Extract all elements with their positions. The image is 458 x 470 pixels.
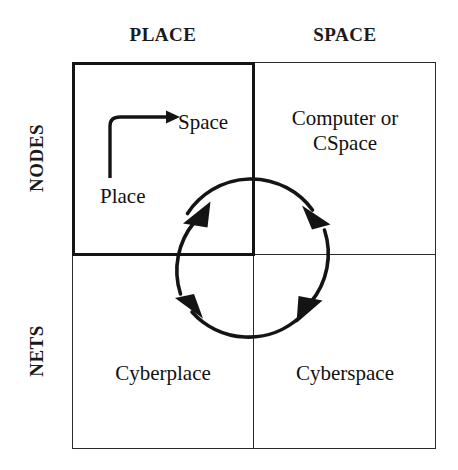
cell-label-cyberspace: Cyberspace xyxy=(254,361,436,386)
cell-nets-space: Cyberspace xyxy=(254,255,436,449)
cell-label-cyberplace: Cyberplace xyxy=(72,361,254,386)
row-header-nodes: NODES xyxy=(24,68,50,248)
emphasis-outline-nodes-place xyxy=(72,62,255,256)
row-header-nets: NETS xyxy=(24,261,50,441)
cell-nodes-space: Computer or CSpace xyxy=(254,62,436,255)
column-header-space: SPACE xyxy=(254,22,436,48)
matrix-grid: Space Place Computer or CSpace Cyberplac… xyxy=(72,62,436,449)
cell-nets-place: Cyberplace xyxy=(72,255,254,449)
cell-label-computer-or-cspace: Computer or CSpace xyxy=(254,106,436,156)
column-header-place: PLACE xyxy=(72,22,254,48)
matrix-figure: PLACE SPACE NODES NETS Space Place Compu… xyxy=(0,0,458,470)
